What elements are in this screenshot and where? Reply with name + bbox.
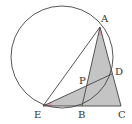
geometry-diagram: A B C D E P — [0, 0, 132, 124]
label-p: P — [79, 75, 86, 86]
diagram-canvas: A B C D E P — [0, 0, 132, 124]
label-b: B — [78, 109, 85, 120]
label-a: A — [100, 13, 109, 24]
label-c: C — [118, 109, 126, 120]
label-e: E — [34, 109, 41, 120]
label-d: D — [115, 66, 123, 77]
